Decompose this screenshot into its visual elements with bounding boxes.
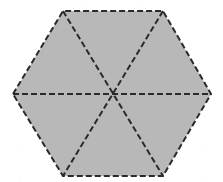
hexagon-figure (0, 0, 223, 182)
figure-canvas (0, 0, 223, 182)
